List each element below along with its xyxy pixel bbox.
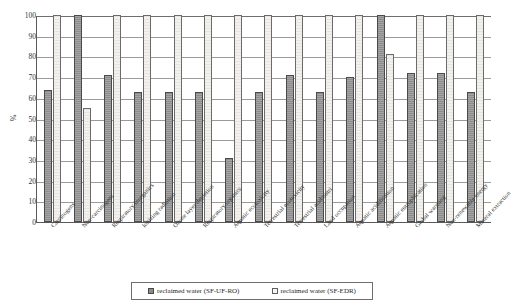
y-axis-tick-label: 10 xyxy=(10,198,36,206)
bar-group xyxy=(37,16,67,222)
bar-group xyxy=(430,16,460,222)
y-axis-tick-label: 50 xyxy=(10,116,36,124)
chart-legend: reclaimed water (SF-UF-RO) reclaimed wat… xyxy=(131,282,373,300)
dark-swatch-icon xyxy=(148,288,154,294)
legend-item-sf-edr: reclaimed water (SF-EDR) xyxy=(272,287,356,295)
y-axis-tick-label: 100 xyxy=(10,12,36,20)
y-axis-tick-label: 0 xyxy=(10,219,36,227)
bar-sf-edr xyxy=(83,108,91,222)
y-axis-tick-label: 40 xyxy=(10,136,36,144)
bar-sf-edr xyxy=(53,15,61,222)
y-axis-tick-label: 60 xyxy=(10,95,36,103)
bar-sf-uf-ro xyxy=(74,15,82,222)
bar-sf-edr xyxy=(355,15,363,222)
legend-item-sf-uf-ro: reclaimed water (SF-UF-RO) xyxy=(148,287,239,295)
bar-sf-uf-ro xyxy=(44,90,52,222)
y-axis-tick-label: 30 xyxy=(10,157,36,165)
legend-label-sf-edr: reclaimed water (SF-EDR) xyxy=(281,287,356,295)
y-axis-tick-label: 90 xyxy=(10,33,36,41)
bar-sf-edr xyxy=(174,15,182,222)
legend-label-sf-uf-ro: reclaimed water (SF-UF-RO) xyxy=(157,287,239,295)
x-axis-labels: CarcinogensNon-carcinogensRespiratory in… xyxy=(36,224,491,284)
bar-group xyxy=(340,16,370,222)
y-axis-tick-label: 20 xyxy=(10,178,36,186)
bar-sf-edr xyxy=(113,15,121,222)
bar-group xyxy=(98,16,128,222)
bar-sf-edr xyxy=(446,15,454,222)
bar-group xyxy=(67,16,97,222)
y-axis-tick-label: 70 xyxy=(10,74,36,82)
y-axis: % 0102030405060708090100 xyxy=(4,0,36,305)
y-axis-tick-label: 80 xyxy=(10,53,36,61)
light-swatch-icon xyxy=(272,288,278,294)
